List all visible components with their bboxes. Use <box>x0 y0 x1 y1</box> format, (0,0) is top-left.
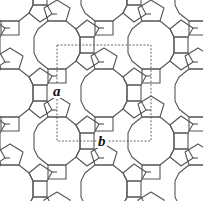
axis-label-a: a <box>52 84 62 98</box>
framework-diagram <box>0 0 203 201</box>
framework-net <box>0 0 203 201</box>
axis-label-b: b <box>97 134 107 148</box>
unit-cell-outline <box>57 45 151 141</box>
